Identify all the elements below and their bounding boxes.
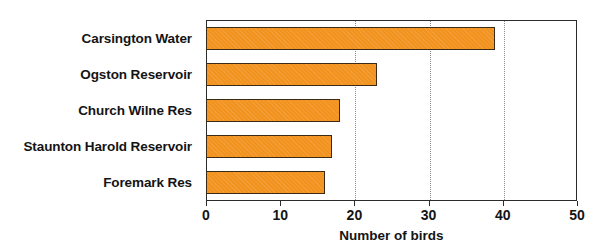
bar-row <box>206 165 577 201</box>
bar-foremark-res <box>206 171 325 194</box>
y-axis-tick-text: Ogston Reservoir <box>80 67 192 82</box>
x-axis-tickmark-20 <box>354 201 355 206</box>
x-axis-tick-label-40: 40 <box>495 207 511 223</box>
y-axis-tick-text: Staunton Harold Reservoir <box>23 139 192 154</box>
y-axis-tick-label: Church Wilne Res <box>0 92 200 128</box>
x-axis-tick-label-50: 50 <box>569 207 585 223</box>
x-axis-tick-label-30: 30 <box>421 207 437 223</box>
x-axis-tickmark-50 <box>577 201 578 206</box>
bar-row <box>206 20 577 56</box>
y-axis-tick-text: Foremark Res <box>103 175 192 190</box>
y-axis-tick-text: Church Wilne Res <box>78 103 192 118</box>
chart-figure: Carsington Water Ogston Reservoir Church… <box>0 0 601 248</box>
bar-ogston-reservoir <box>206 63 377 86</box>
y-axis-tick-label: Carsington Water <box>0 20 200 56</box>
y-axis-category-labels: Carsington Water Ogston Reservoir Church… <box>0 20 200 201</box>
y-axis-tick-label: Foremark Res <box>0 165 200 201</box>
x-axis-tick-label-10: 10 <box>272 207 288 223</box>
x-axis-title: Number of birds <box>206 228 577 243</box>
x-axis-tickmark-40 <box>503 201 504 206</box>
y-axis-tick-text: Carsington Water <box>82 31 192 46</box>
x-axis-tick-label-20: 20 <box>347 207 363 223</box>
x-axis-tick-label-0: 0 <box>202 207 210 223</box>
y-axis-tick-label: Ogston Reservoir <box>0 56 200 92</box>
y-axis-tick-label: Staunton Harold Reservoir <box>0 129 200 165</box>
bar-row <box>206 92 577 128</box>
bar-church-wilne-res <box>206 99 340 122</box>
bar-carsington-water <box>206 27 495 50</box>
bar-row <box>206 56 577 92</box>
clipped-title-remnant <box>0 0 601 5</box>
bar-staunton-harold-reservoir <box>206 135 332 158</box>
x-axis-tickmark-10 <box>280 201 281 206</box>
x-axis-tickmark-30 <box>429 201 430 206</box>
x-axis-tickmark-0 <box>206 201 207 206</box>
bar-row <box>206 129 577 165</box>
bars-layer <box>206 20 577 201</box>
